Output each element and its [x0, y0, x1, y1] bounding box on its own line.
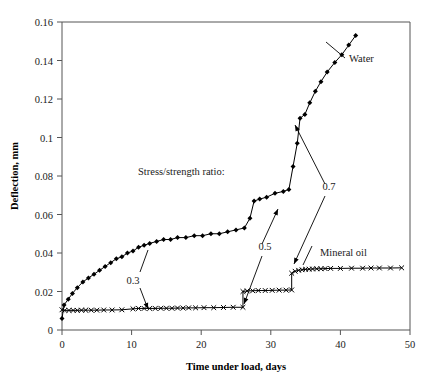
- x-tick-label: 10: [126, 339, 137, 350]
- y-axis-title: Deflection, mm: [9, 142, 20, 210]
- series-label-mineral-oil: Mineral oil: [320, 247, 367, 258]
- x-tick-label: 50: [405, 339, 416, 350]
- y-tick-label: 0.12: [35, 94, 53, 105]
- x-tick-label: 20: [196, 339, 207, 350]
- chart-figure: 01020304050 00.020.040.060.080.10.120.14…: [0, 0, 434, 387]
- x-tick-label: 30: [266, 339, 277, 350]
- y-tick-label: 0.16: [35, 17, 53, 28]
- stress-strength-caption: Stress/strength ratio:: [138, 166, 225, 177]
- ratio-label-0-5: 0.5: [258, 241, 271, 252]
- ratio-label-0-7: 0.7: [322, 181, 335, 192]
- x-axis-title: Time under load, days: [186, 361, 286, 372]
- y-tick-label: 0.02: [35, 287, 53, 298]
- y-tick-label: 0.14: [35, 56, 54, 67]
- x-tick-label: 0: [59, 339, 64, 350]
- y-tick-label: 0: [48, 325, 53, 336]
- y-tick-label: 0.08: [35, 171, 53, 182]
- ratio-label-0-3: 0.3: [126, 275, 139, 286]
- y-tick-label: 0.04: [35, 248, 54, 259]
- deflection-vs-time-chart: 01020304050 00.020.040.060.080.10.120.14…: [0, 0, 434, 387]
- y-tick-label: 0.1: [40, 133, 53, 144]
- y-tick-label: 0.06: [35, 210, 53, 221]
- series-label-water: Water: [349, 53, 374, 64]
- x-tick-label: 40: [335, 339, 346, 350]
